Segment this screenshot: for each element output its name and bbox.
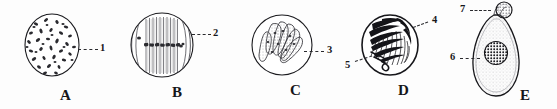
callout-number-7: 7 <box>460 4 465 15</box>
panel-a: 1 A <box>0 0 120 109</box>
callout-number-4: 4 <box>432 15 437 26</box>
leader-line-3 <box>304 51 324 52</box>
leader-line-2 <box>192 34 211 35</box>
leader-line-7 <box>470 10 491 11</box>
cell-stages-figure: 1 A <box>0 0 557 109</box>
panel-letter-a: A <box>60 88 71 103</box>
panel-d: 4 5 D <box>340 0 455 109</box>
panel-e: 7 6 E <box>448 0 557 109</box>
callout-number-1: 1 <box>100 43 105 54</box>
panel-c: 3 C <box>232 0 352 109</box>
panel-e-drawing <box>448 0 557 109</box>
callout-number-6: 6 <box>450 52 455 63</box>
callout-number-5: 5 <box>345 60 350 71</box>
callout-number-3: 3 <box>327 45 332 56</box>
callout-number-2: 2 <box>213 28 218 39</box>
panel-letter-b: B <box>172 85 182 100</box>
panel-letter-e: E <box>520 88 530 103</box>
panel-b: 2 B <box>110 0 235 109</box>
panel-letter-c: C <box>290 83 301 98</box>
panel-letter-d: D <box>398 83 409 98</box>
leader-line-1 <box>78 49 98 50</box>
leader-line-6 <box>460 58 480 59</box>
